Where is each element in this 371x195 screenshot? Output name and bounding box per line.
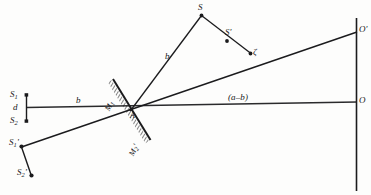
label-screen-bottom: O <box>359 96 366 105</box>
label-source-1: S1 <box>10 90 18 100</box>
point-image-2 <box>29 173 33 177</box>
label-distance-b-upper: b <box>165 52 170 61</box>
label-vertex-a: A <box>130 112 135 120</box>
label-zeta: ζ <box>253 48 257 57</box>
label-source-top-prime: S' <box>225 28 232 37</box>
diagram-canvas <box>0 0 371 195</box>
label-image-1: S1' <box>9 138 19 148</box>
ray-vertex-to-source <box>131 16 202 111</box>
point-s <box>200 14 204 18</box>
label-distance-b-left: b <box>76 96 81 105</box>
label-separation-d: d <box>13 103 18 112</box>
source-2-tick <box>25 119 29 122</box>
figure-root: S1 d S2 S1' S2' S S' ζ M1 M2' A b b (a–b… <box>0 0 371 195</box>
label-source-2: S2 <box>10 116 18 126</box>
source-1-tick <box>25 93 29 96</box>
label-image-2: S2' <box>17 168 27 178</box>
ray-image-to-screen-top <box>22 32 358 147</box>
label-screen-top: O' <box>359 25 368 34</box>
point-image-1 <box>19 144 23 148</box>
label-distance-a-minus-b: (a–b) <box>228 93 248 102</box>
point-s-prime <box>225 39 229 43</box>
point-zeta <box>249 52 253 56</box>
label-source-top: S <box>198 3 203 12</box>
